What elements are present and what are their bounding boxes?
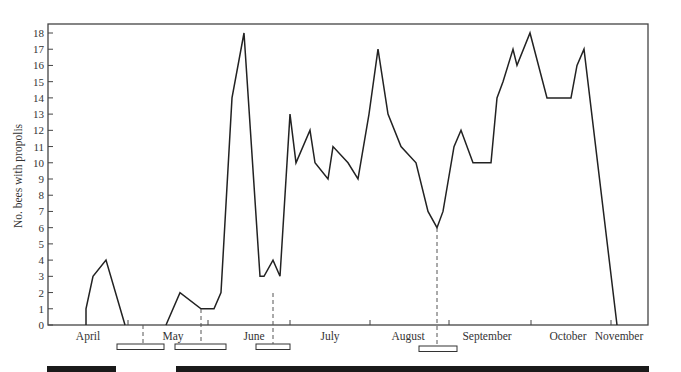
y-tick-label: 9 <box>39 173 45 185</box>
month-label-october: October <box>549 330 586 342</box>
y-tick-label: 12 <box>33 124 44 136</box>
month-label-may: May <box>162 330 183 343</box>
y-tick-label: 14 <box>33 92 45 104</box>
y-tick-label: 3 <box>39 270 45 282</box>
month-label-july: July <box>320 330 339 343</box>
open-period-bar <box>419 346 457 352</box>
y-tick-label: 18 <box>33 27 45 39</box>
y-tick-label: 8 <box>39 189 45 201</box>
y-tick-label: 0 <box>39 319 45 331</box>
y-tick-label: 1 <box>39 303 45 315</box>
solid-period-bar <box>47 366 116 372</box>
y-axis: 0123456789101112131415161718 <box>33 27 53 331</box>
month-label-april: April <box>76 330 100 343</box>
open-period-bar <box>117 344 164 350</box>
y-tick-label: 4 <box>39 254 45 266</box>
y-axis-label: No. bees with propolis <box>12 123 25 228</box>
open-period-bar <box>175 344 226 350</box>
y-tick-label: 11 <box>33 141 44 153</box>
y-tick-label: 6 <box>39 222 45 234</box>
y-tick-label: 10 <box>33 157 45 169</box>
solid-period-bar <box>176 366 649 372</box>
y-tick-label: 15 <box>33 76 45 88</box>
annotation-markers <box>47 228 649 372</box>
y-tick-label: 7 <box>39 205 45 217</box>
month-label-september: September <box>462 330 511 343</box>
month-label-november: November <box>595 330 644 342</box>
x-axis: AprilMayJuneJulyAugustSeptemberOctoberNo… <box>76 320 644 343</box>
y-tick-label: 16 <box>33 59 45 71</box>
data-series-line <box>86 33 617 325</box>
plot-frame <box>48 24 648 325</box>
y-tick-label: 5 <box>39 238 45 250</box>
y-tick-label: 17 <box>33 43 45 55</box>
month-label-june: June <box>243 330 264 342</box>
y-tick-label: 2 <box>39 287 45 299</box>
open-period-bar <box>256 344 290 350</box>
month-label-august: August <box>391 330 425 343</box>
propolis-line-chart: 0123456789101112131415161718 AprilMayJun… <box>0 0 681 372</box>
y-tick-label: 13 <box>33 108 45 120</box>
